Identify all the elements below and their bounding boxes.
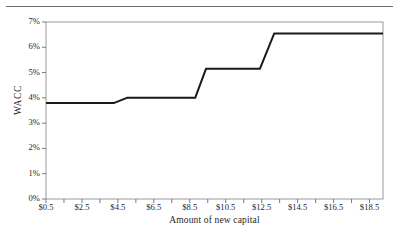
x-axis-tick-label: $10.5 <box>206 202 246 212</box>
plot-frame <box>46 22 383 199</box>
y-axis-tick-label: 6% <box>10 41 40 51</box>
x-axis-tick-label: $12.5 <box>242 202 282 212</box>
wacc-step-line <box>46 33 383 103</box>
y-axis-tick-label: 2% <box>10 142 40 152</box>
wacc-line-chart <box>0 0 399 234</box>
y-axis-ticks <box>42 22 46 199</box>
y-axis-title: WACC <box>13 70 23 130</box>
plot-border <box>46 22 383 199</box>
x-axis-tick-label: $8.5 <box>170 202 210 212</box>
x-axis-tick-label: $0.5 <box>26 202 66 212</box>
x-axis-tick-label: $6.5 <box>134 202 174 212</box>
x-axis-tick-label: $16.5 <box>314 202 354 212</box>
x-axis-tick-label: $2.5 <box>62 202 102 212</box>
y-axis-tick-label: 7% <box>10 16 40 26</box>
x-axis-tick-label: $4.5 <box>98 202 138 212</box>
x-axis-tick-label: $14.5 <box>278 202 318 212</box>
y-axis-tick-label: 1% <box>10 168 40 178</box>
data-series-group <box>46 33 383 103</box>
x-axis-tick-label: $18.5 <box>350 202 390 212</box>
chart-figure: 0%1%2%3%4%5%6%7% $0.5$2.5$4.5$6.5$8.5$10… <box>0 0 399 234</box>
x-axis-title: Amount of new capital <box>46 215 383 225</box>
